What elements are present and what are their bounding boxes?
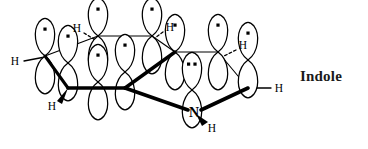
orbital-c4	[115, 34, 134, 110]
hydrogen-label-top-left: H	[73, 22, 81, 34]
p-orbital-set	[35, 0, 257, 128]
hydrogen-label-right: H	[275, 82, 283, 94]
hbond-upper-right-dashed	[222, 50, 236, 57]
electron-dot	[96, 54, 99, 57]
electron-dot	[66, 35, 69, 38]
atom-label-nitrogen: N	[189, 105, 199, 120]
electron-dot-a	[187, 63, 190, 66]
indole-orbital-diagram: N H H H H H H H Indole	[0, 0, 368, 149]
hydrogen-label-top-right: H	[166, 21, 174, 33]
electron-dot	[216, 24, 219, 27]
electron-dot	[43, 28, 46, 31]
electron-dot	[150, 8, 153, 11]
hydrogen-label-upper-right: H	[239, 39, 247, 51]
bond-n1-c2b	[201, 88, 248, 110]
hydrogen-label-left: H	[11, 55, 19, 67]
orbital-c5	[88, 44, 107, 120]
hydrogen-label-bottom-left: H	[48, 100, 56, 112]
electron-dot	[123, 44, 126, 47]
electron-dot-b	[193, 63, 196, 66]
electron-dot	[96, 8, 99, 11]
molecule-caption: Indole	[300, 68, 342, 85]
electron-dot	[246, 32, 249, 35]
hydrogen-label-nitrogen: H	[208, 122, 216, 134]
